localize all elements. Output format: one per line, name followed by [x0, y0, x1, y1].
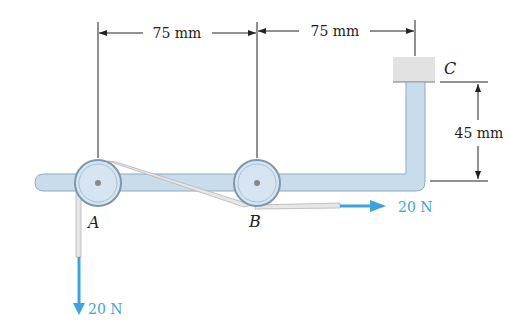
force-horizontal-label: 20 N	[398, 199, 433, 215]
dimension-ab-label: 75 mm	[153, 25, 202, 41]
force-vertical-label: 20 N	[88, 301, 123, 317]
force-arrow-horizontal	[340, 200, 386, 212]
dimension-bc: 75 mm	[258, 23, 414, 39]
point-b-label: B	[248, 212, 261, 231]
support-block-c	[393, 57, 435, 82]
pulley-b	[234, 160, 280, 206]
diagram-canvas: 75 mm 75 mm 45 mm C A B 20 N	[0, 0, 527, 336]
dimension-ab: 75 mm	[99, 25, 256, 41]
point-c-label: C	[444, 59, 456, 78]
point-a-label: A	[86, 213, 100, 232]
pulley-a	[75, 160, 121, 206]
dimension-c-height: 45 mm	[455, 84, 504, 179]
dimension-bc-label: 75 mm	[311, 23, 360, 39]
extension-lines	[98, 20, 488, 181]
dimension-c-height-label: 45 mm	[455, 125, 504, 141]
force-arrow-vertical	[73, 257, 85, 315]
